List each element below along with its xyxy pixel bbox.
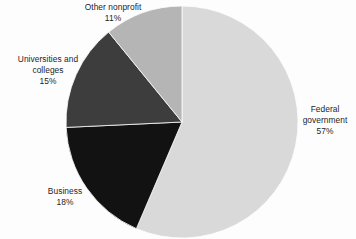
pie-label-federal-government-name-line1: Federal [296,104,354,115]
pie-label-universities-and-colleges-value: 15% [2,76,94,87]
pie-label-business-value: 18% [27,197,103,208]
pie-label-universities-and-colleges-name-line1: Universities and [2,54,94,65]
pie-label-business: Business 18% [27,186,103,208]
pie-label-other-nonprofit-name: Other nonprofit [69,2,157,13]
pie-label-federal-government: Federal government 57% [296,104,354,138]
pie-label-universities-and-colleges-name-line2: colleges [2,65,94,76]
pie-chart: Federal government 57% Business 18% Univ… [0,0,356,239]
pie-label-business-name: Business [27,186,103,197]
pie-label-other-nonprofit: Other nonprofit 11% [69,2,157,24]
pie-label-federal-government-value: 57% [296,126,354,137]
pie-label-federal-government-name-line2: government [296,115,354,126]
pie-label-other-nonprofit-value: 11% [69,13,157,24]
pie-label-universities-and-colleges: Universities and colleges 15% [2,54,94,88]
